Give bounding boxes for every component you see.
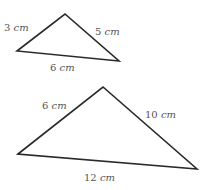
triangles-diagram: 3 cm 5 cm 6 cm 6 cm 10 cm 12 cm	[0, 0, 206, 190]
large-side-bottom-label: 12 cm	[84, 172, 115, 183]
large-side-left-label: 6 cm	[42, 100, 67, 111]
small-side-bottom-label: 6 cm	[50, 62, 75, 73]
small-triangle	[17, 14, 119, 61]
small-side-left-label: 3 cm	[4, 22, 29, 33]
small-side-right-label: 5 cm	[95, 26, 120, 37]
large-side-right-label: 10 cm	[145, 109, 176, 120]
